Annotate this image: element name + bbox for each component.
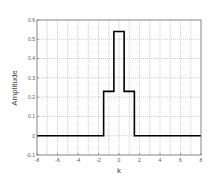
y-tick-label: -0.1 bbox=[26, 152, 35, 158]
y-tick-labels: -0.100.10.20.30.40.50.6 bbox=[26, 17, 35, 158]
x-tick-label: 0 bbox=[118, 157, 121, 163]
y-tick-label: 0 bbox=[32, 133, 35, 139]
x-tick-label: 6 bbox=[179, 157, 182, 163]
x-tick-label: 4 bbox=[159, 157, 162, 163]
x-tick-label: 8 bbox=[200, 157, 203, 163]
x-tick-label: -2 bbox=[96, 157, 101, 163]
y-tick-label: 0.2 bbox=[28, 94, 35, 100]
y-tick-label: 0.4 bbox=[28, 55, 35, 61]
y-tick-label: 0.1 bbox=[28, 113, 35, 119]
y-tick-label: 0.3 bbox=[28, 75, 35, 81]
x-tick-label: -4 bbox=[76, 157, 81, 163]
y-tick-label: 0.6 bbox=[28, 17, 35, 23]
x-tick-label: 2 bbox=[138, 157, 141, 163]
x-tick-label: -6 bbox=[55, 157, 60, 163]
x-axis-label: k bbox=[117, 166, 122, 175]
y-axis-label: Amplitude bbox=[10, 70, 19, 106]
amplitude-chart: -8-6-4-202468 -0.100.10.20.30.40.50.6 k … bbox=[0, 0, 214, 180]
x-tick-label: -8 bbox=[35, 157, 40, 163]
x-tick-labels: -8-6-4-202468 bbox=[35, 157, 203, 163]
y-tick-label: 0.5 bbox=[28, 36, 35, 42]
